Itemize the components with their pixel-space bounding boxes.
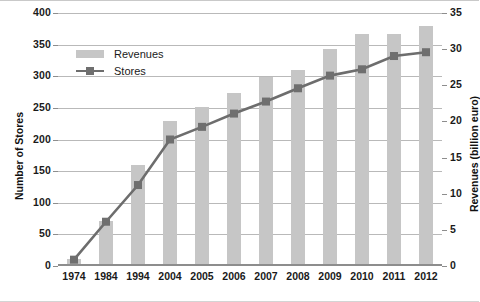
chart-legend: Revenues Stores — [76, 46, 164, 80]
left-tick-label: 150 — [33, 164, 51, 176]
legend-label-revenues: Revenues — [114, 48, 164, 60]
legend-label-stores: Stores — [114, 65, 146, 77]
line-marker-stores — [166, 136, 174, 144]
right-tick-mark — [442, 158, 447, 159]
x-axis-tick-label: 1994 — [126, 270, 149, 282]
x-axis-tick-label: 2010 — [350, 270, 373, 282]
line-marker-stores — [294, 84, 302, 92]
x-axis-tick-label: 2011 — [383, 270, 406, 282]
line-marker-stores — [422, 48, 430, 56]
line-marker-stores — [262, 98, 270, 106]
legend-bar-swatch-icon — [76, 50, 104, 58]
line-marker-stores — [230, 110, 238, 118]
left-tick-label: 400 — [33, 6, 51, 18]
left-tick-label: 100 — [33, 196, 51, 208]
x-axis-tick-label: 2012 — [414, 270, 437, 282]
right-tick-label: 10 — [450, 187, 462, 199]
x-axis-tick-label: 2004 — [158, 270, 181, 282]
left-tick-label: 350 — [33, 38, 51, 50]
line-marker-stores — [326, 72, 334, 80]
x-axis-baseline — [58, 264, 442, 266]
right-tick-label: 25 — [450, 78, 462, 90]
line-marker-stores — [70, 256, 78, 264]
right-tick-mark — [442, 121, 447, 122]
right-tick-label: 0 — [450, 259, 456, 271]
line-marker-stores — [198, 123, 206, 131]
legend-item-revenues: Revenues — [76, 46, 164, 61]
x-axis-tick-label: 2005 — [190, 270, 213, 282]
top-divider — [0, 0, 479, 1]
line-marker-stores — [358, 65, 366, 73]
left-axis-title: Number of Stores — [13, 101, 25, 211]
x-axis-tick-label: 2009 — [318, 270, 341, 282]
right-tick-mark — [442, 85, 447, 86]
right-tick-label: 15 — [450, 151, 462, 163]
right-tick-mark — [442, 49, 447, 50]
x-axis-tick-label: 1984 — [94, 270, 117, 282]
left-tick-label: 250 — [33, 101, 51, 113]
right-tick-mark — [442, 266, 447, 267]
right-tick-mark — [442, 194, 447, 195]
right-axis-title: Revenues (billion euro) — [468, 84, 480, 224]
legend-item-stores: Stores — [76, 63, 164, 78]
right-tick-label: 5 — [450, 223, 456, 235]
x-axis-tick-label: 2007 — [254, 270, 277, 282]
left-tick-label: 50 — [39, 227, 51, 239]
x-axis-labels: 1974198419942004200520062007200820092010… — [58, 270, 442, 286]
right-tick-label: 30 — [450, 42, 462, 54]
right-tick-label: 20 — [450, 114, 462, 126]
x-axis-tick-label: 1974 — [62, 270, 85, 282]
right-tick-mark — [442, 13, 447, 14]
x-axis-tick-label: 2006 — [222, 270, 245, 282]
right-tick-label: 35 — [450, 6, 462, 18]
line-path-stores — [74, 52, 426, 259]
left-tick-label: 300 — [33, 69, 51, 81]
line-marker-stores — [102, 218, 110, 226]
x-axis-tick-label: 2008 — [286, 270, 309, 282]
right-tick-mark — [442, 230, 447, 231]
legend-line-swatch-icon — [76, 66, 104, 76]
left-tick-mark — [53, 266, 58, 267]
line-marker-stores — [134, 181, 142, 189]
left-tick-label: 0 — [45, 259, 51, 271]
line-marker-stores — [390, 52, 398, 60]
left-tick-label: 200 — [33, 133, 51, 145]
